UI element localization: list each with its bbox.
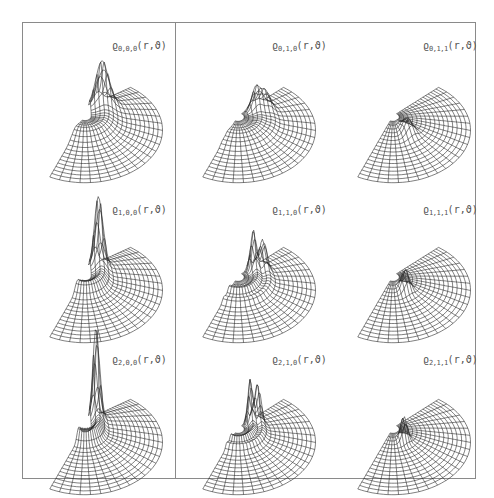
surface-plot-p100 — [30, 248, 170, 358]
column-divider — [175, 22, 176, 479]
panel-label-p111: ϱ1,1,1(r,ϑ) — [423, 204, 478, 217]
surface-plot-p111 — [338, 248, 478, 358]
surface-plot-p000 — [30, 88, 170, 198]
panel-label-p200: ϱ2,0,0(r,ϑ) — [112, 354, 167, 367]
panel-label-p210: ϱ2,1,0(r,ϑ) — [272, 354, 327, 367]
panel-label-p100: ϱ1,0,0(r,ϑ) — [112, 204, 167, 217]
panel-label-p211: ϱ2,1,1(r,ϑ) — [423, 354, 478, 367]
surface-plot-p210 — [183, 400, 323, 498]
surface-plot-p211 — [338, 400, 478, 498]
panel-label-p000: ϱ0,0,0(r,ϑ) — [112, 40, 167, 53]
panel-label-p011: ϱ0,1,1(r,ϑ) — [423, 40, 478, 53]
panel-label-p010: ϱ0,1,0(r,ϑ) — [272, 40, 327, 53]
surface-plot-p110 — [183, 248, 323, 358]
surface-plot-p010 — [183, 88, 323, 198]
surface-plot-p200 — [30, 400, 170, 498]
surface-plot-p011 — [338, 88, 478, 198]
panel-label-p110: ϱ1,1,0(r,ϑ) — [272, 204, 327, 217]
